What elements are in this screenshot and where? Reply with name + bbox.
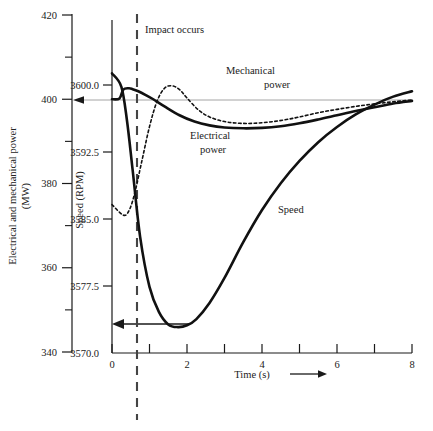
power-tick-label: 400 [41, 94, 57, 105]
speed-axis-title: Speed (RPM) [74, 171, 86, 229]
speed-label-line1: Speed [278, 204, 304, 215]
time-tick-label: 8 [409, 359, 414, 370]
power-axis: 420400380360340 Electrical and mechanica… [7, 10, 72, 358]
speed-axis: 3600.03592.53585.03577.53570.0 Speed (RP… [70, 20, 112, 359]
mechanical-power-label-line1: Mechanical [226, 65, 275, 76]
power-axis-title-line1: Electrical and mechanical power [7, 127, 18, 265]
mechanical-power-label-line2: power [264, 79, 291, 90]
impact-occurs-label: Impact occurs [145, 24, 204, 35]
speed-tick-label: 3600.0 [70, 80, 99, 91]
time-tick-label: 0 [109, 359, 114, 370]
time-axis-title: Time (s) [234, 369, 270, 381]
time-axis: 02468 Time (s) [109, 344, 414, 381]
mechanical-power-curve [112, 86, 412, 216]
electrical-power-label-line1: Electrical [190, 130, 230, 141]
power-and-speed-chart: 420400380360340 Electrical and mechanica… [0, 0, 433, 431]
speed-label: Speed [278, 204, 304, 215]
speed-tick-label: 3592.5 [70, 147, 99, 158]
power-axis-title-line2: (MW) [20, 182, 32, 209]
figure-container: 420400380360340 Electrical and mechanica… [0, 0, 433, 431]
speed-curve [112, 73, 412, 327]
power-tick-label: 420 [41, 10, 57, 21]
power-tick-label: 360 [41, 262, 57, 273]
time-tick-label: 2 [184, 359, 189, 370]
speed-tick-label: 3570.0 [70, 348, 99, 359]
time-axis-arrow-icon [290, 370, 327, 378]
power-tick-label: 340 [41, 347, 57, 358]
power-tick-label: 380 [41, 178, 57, 189]
electrical-power-label: Electrical power [190, 130, 230, 155]
electrical-power-label-line2: power [200, 144, 227, 155]
mechanical-power-label: Mechanical power [226, 65, 291, 90]
speed-tick-label: 3577.5 [70, 281, 99, 292]
time-tick-label: 6 [334, 359, 339, 370]
